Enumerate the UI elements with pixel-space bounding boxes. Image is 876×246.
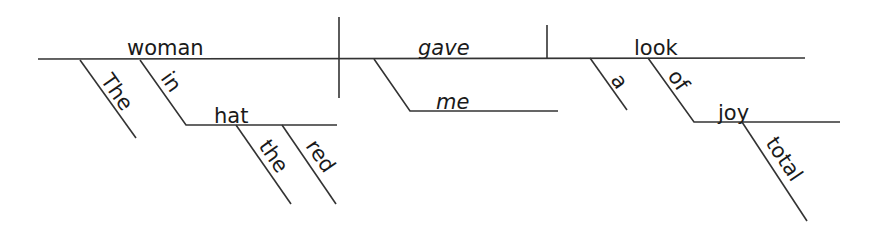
sentence-diagram: woman The in hat the red gave me look a …: [0, 0, 876, 246]
verb-word: gave: [418, 36, 470, 60]
preposition-of-word: of: [663, 65, 695, 96]
direct-object-word: look: [634, 36, 679, 60]
article-a-word: a: [606, 69, 633, 93]
subject-word: woman: [127, 36, 204, 60]
adjective-total-word: total: [761, 132, 808, 185]
preposition-in-word: in: [156, 67, 187, 96]
article-the-lower-word: the: [254, 135, 293, 177]
prep-object-hat-word: hat: [214, 104, 248, 128]
indirect-object-word: me: [436, 90, 469, 114]
prep-object-joy-word: joy: [717, 101, 749, 125]
adjective-red-word: red: [301, 135, 340, 177]
